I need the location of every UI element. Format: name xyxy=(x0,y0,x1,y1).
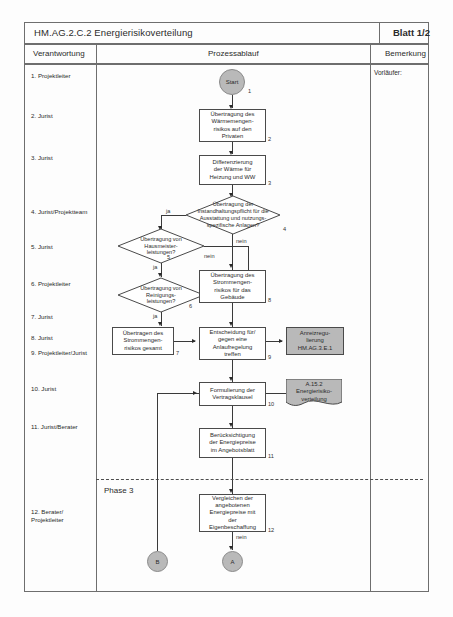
edge-label-4-no: nein xyxy=(236,238,247,244)
arrow-4-no xyxy=(229,264,233,268)
responsibility-9: 9. Projektleiter/Jurist xyxy=(31,349,87,357)
connector-A[interactable]: A xyxy=(222,551,243,572)
step-number-7: 7 xyxy=(176,350,179,356)
arrow-9-10 xyxy=(229,377,233,381)
step-number-5: 5 xyxy=(167,254,170,260)
edge-label-5-yes: ja xyxy=(153,264,157,270)
arrow-11-12 xyxy=(229,489,233,493)
step-number-3: 3 xyxy=(268,180,271,186)
edge-5-no xyxy=(204,246,248,247)
arrow-9-ref xyxy=(279,339,283,343)
arrow-8-9 xyxy=(229,322,233,326)
process-box-11[interactable]: Berücksichtigung der Energiepreise im An… xyxy=(199,428,266,458)
page-title: HM.AG.2.C.2 Energierisikoverteilung xyxy=(34,27,193,38)
process-box-12[interactable]: Vergleichen der angebotenen Energiepreis… xyxy=(199,494,266,532)
step-number-10: 10 xyxy=(268,401,274,407)
responsibility-6: 6. Projektleiter xyxy=(31,280,71,288)
process-box-8[interactable]: Übertragung des Strommengen- risikos für… xyxy=(199,270,266,303)
arrow-5-yes xyxy=(158,273,162,277)
phase-divider xyxy=(96,479,423,480)
edge-label-4-yes: ja xyxy=(166,208,170,214)
edge-label-5-no: nein xyxy=(204,253,215,259)
document-shape-energierisikoverteilung[interactable]: A.15.2 Energierisiko- verteilung xyxy=(286,379,342,408)
arrow-7-9 xyxy=(192,339,196,343)
step-number-4: 4 xyxy=(283,226,286,232)
edge-10-doc xyxy=(266,393,286,394)
phase-label: Phase 3 xyxy=(104,486,133,495)
edge-4-yes xyxy=(161,215,186,216)
arrow-6-yes xyxy=(158,322,162,326)
sheet-number: Blatt 1/2 xyxy=(393,27,430,38)
edge-into-B xyxy=(157,542,158,551)
responsibility-8: 8. Jurist xyxy=(31,334,53,342)
feedback-line-vertical xyxy=(157,393,158,543)
responsibility-3: 3. Jurist xyxy=(31,154,53,162)
decision-5-label: Übertragung von Hausmeister- leistungen? xyxy=(118,229,204,263)
reference-box-anreizregulierung[interactable]: Anreizregu- lierung HM.AG.3.E.1 xyxy=(286,327,344,355)
responsibility-5: 5. Jurist xyxy=(31,243,53,251)
arrow-10-11 xyxy=(229,423,233,427)
step-number-11: 11 xyxy=(268,453,274,459)
arrow-12-A xyxy=(229,546,233,550)
process-box-9[interactable]: Entscheidung für/ gegen eine Anlaufregel… xyxy=(199,327,266,360)
step-number-8: 8 xyxy=(268,297,271,303)
responsibility-7: 7. Jurist xyxy=(31,313,53,321)
responsibility-12: 12. Berater/ Projektleiter xyxy=(31,508,64,523)
edge-label-12-no: nein xyxy=(236,534,247,540)
step-number-9: 9 xyxy=(268,354,271,360)
column-header-process: Prozessablauf xyxy=(208,49,259,58)
flowchart-page: HM.AG.2.C.2 Energierisikoverteilung Blat… xyxy=(0,0,453,617)
step-number-2: 2 xyxy=(268,136,271,142)
process-box-7[interactable]: Übertragen des Strommengen- risikos gesa… xyxy=(112,327,174,355)
responsibility-4: 4. Jurist/Projektteam xyxy=(31,208,87,216)
responsibility-2: 2. Jurist xyxy=(31,112,53,120)
responsibility-1: 1. Projektleiter xyxy=(31,72,71,80)
title-sheet-divider xyxy=(379,22,380,44)
process-box-3[interactable]: Differenzierung der Wärme für Heizung un… xyxy=(199,155,266,185)
edge-label-6-yes: ja xyxy=(153,313,157,319)
document-shape-label: A.15.2 Energierisiko- verteilung xyxy=(286,379,342,408)
decision-diamond-5[interactable]: Übertragung von Hausmeister- leistungen? xyxy=(118,229,204,263)
column-divider-left xyxy=(96,44,97,592)
remark-predecessor: Vorläufer: xyxy=(374,69,402,76)
arrow-feedback-10 xyxy=(193,391,197,395)
connector-B[interactable]: B xyxy=(147,551,168,572)
start-terminator[interactable]: Start xyxy=(219,69,245,95)
step-number-1: 1 xyxy=(248,88,251,94)
responsibility-10: 10. Jurist xyxy=(31,385,56,393)
step-number-6: 6 xyxy=(189,303,192,309)
column-header-remark: Bemerkung xyxy=(385,49,426,58)
responsibility-11: 11. Jurist/Berater xyxy=(31,423,78,431)
step-number-12: 12 xyxy=(268,527,274,533)
column-divider-right xyxy=(370,44,371,592)
process-box-10[interactable]: Formulierung der Vertragsklausel xyxy=(199,382,266,406)
column-header-responsibility: Verantwortung xyxy=(33,49,85,58)
process-box-2[interactable]: Übertragung des Wärmemengen- risikos auf… xyxy=(199,109,266,142)
